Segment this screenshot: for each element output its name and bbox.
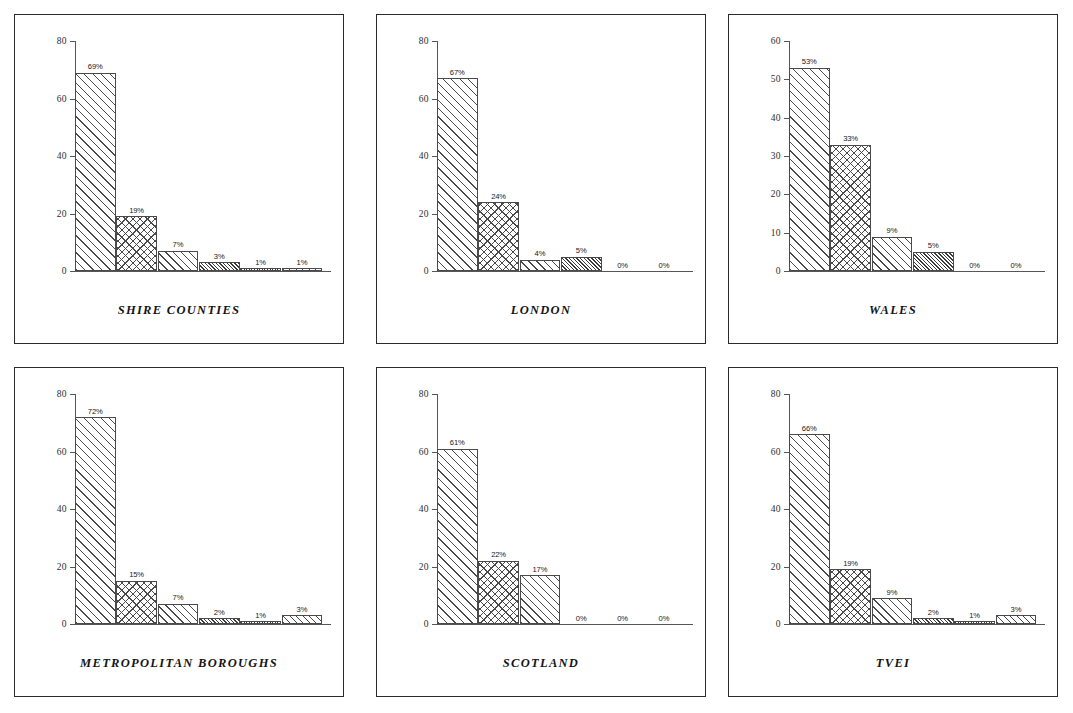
y-tick-label: 80 bbox=[35, 389, 67, 399]
chart-panel-1: 02040608069%19%7%3%1%1%SHIRE COUNTIES bbox=[14, 14, 344, 344]
bar bbox=[872, 598, 913, 624]
bar-value-label: 0% bbox=[659, 261, 670, 270]
bar-value-label: 0% bbox=[617, 261, 628, 270]
bar-value-label: 7% bbox=[173, 593, 184, 602]
bar bbox=[116, 581, 157, 624]
x-axis-line bbox=[75, 624, 331, 625]
bar-value-label: 0% bbox=[1011, 261, 1022, 270]
chart-panel-5: 02040608061%22%17%0%0%0%SCOTLAND bbox=[376, 367, 706, 697]
chart-panel-3: 010203040506053%33%9%5%0%0%WALES bbox=[728, 14, 1058, 344]
y-tick-label: 60 bbox=[397, 447, 429, 457]
y-tick-label: 60 bbox=[35, 447, 67, 457]
bar bbox=[75, 417, 116, 624]
bar-value-label: 19% bbox=[843, 559, 858, 568]
y-tick-label: 50 bbox=[749, 74, 781, 84]
y-tick bbox=[70, 271, 76, 272]
y-tick bbox=[70, 394, 76, 395]
bar bbox=[520, 575, 561, 624]
y-tick-label: 60 bbox=[397, 94, 429, 104]
bar-value-label: 0% bbox=[617, 614, 628, 623]
bar bbox=[437, 78, 478, 271]
y-tick-label: 0 bbox=[397, 619, 429, 629]
chart-caption: METROPOLITAN BOROUGHS bbox=[15, 656, 343, 671]
bar-value-label: 33% bbox=[843, 134, 858, 143]
bar-value-label: 1% bbox=[255, 258, 266, 267]
bar-value-label: 2% bbox=[214, 608, 225, 617]
y-tick-label: 80 bbox=[35, 36, 67, 46]
y-tick bbox=[432, 271, 438, 272]
bar-value-label: 19% bbox=[129, 206, 144, 215]
bar bbox=[996, 615, 1037, 624]
bar bbox=[116, 216, 157, 271]
y-tick-label: 60 bbox=[749, 447, 781, 457]
bar-value-label: 67% bbox=[450, 68, 465, 77]
bar bbox=[789, 434, 830, 624]
plot-area: 02040608072%15%7%2%1%3%METROPOLITAN BORO… bbox=[15, 368, 343, 696]
y-tick-label: 20 bbox=[397, 562, 429, 572]
bar-value-label: 1% bbox=[255, 611, 266, 620]
y-tick-label: 80 bbox=[397, 36, 429, 46]
y-tick bbox=[784, 41, 790, 42]
bar bbox=[830, 569, 871, 624]
chart-panel-4: 02040608072%15%7%2%1%3%METROPOLITAN BORO… bbox=[14, 367, 344, 697]
chart-caption: SHIRE COUNTIES bbox=[15, 303, 343, 318]
bar-value-label: 66% bbox=[802, 424, 817, 433]
y-tick bbox=[432, 624, 438, 625]
y-tick-label: 80 bbox=[749, 389, 781, 399]
bar-value-label: 61% bbox=[450, 438, 465, 447]
bar-value-label: 15% bbox=[129, 570, 144, 579]
plot-area: 02040608069%19%7%3%1%1%SHIRE COUNTIES bbox=[15, 15, 343, 343]
chart-caption: TVEI bbox=[729, 656, 1057, 671]
bar-value-label: 22% bbox=[491, 550, 506, 559]
y-tick bbox=[784, 394, 790, 395]
bar bbox=[158, 604, 199, 624]
bar-value-label: 1% bbox=[969, 611, 980, 620]
bar bbox=[282, 615, 323, 624]
bar-value-label: 3% bbox=[214, 252, 225, 261]
chart-panel-2: 02040608067%24%4%5%0%0%LONDON bbox=[376, 14, 706, 344]
bar-value-label: 1% bbox=[297, 258, 308, 267]
chart-caption: SCOTLAND bbox=[377, 656, 705, 671]
y-tick-label: 60 bbox=[749, 36, 781, 46]
bar-value-label: 4% bbox=[535, 249, 546, 258]
y-tick bbox=[784, 624, 790, 625]
chart-caption: LONDON bbox=[377, 303, 705, 318]
plot-area: 010203040506053%33%9%5%0%0%WALES bbox=[729, 15, 1057, 343]
bar bbox=[789, 68, 830, 271]
bar bbox=[282, 268, 323, 271]
bar-value-label: 72% bbox=[88, 407, 103, 416]
y-tick-label: 40 bbox=[397, 151, 429, 161]
y-tick-label: 0 bbox=[35, 266, 67, 276]
bar bbox=[240, 621, 281, 624]
x-axis-line bbox=[75, 271, 331, 272]
bar bbox=[913, 252, 954, 271]
bar bbox=[872, 237, 913, 272]
y-tick-label: 20 bbox=[749, 189, 781, 199]
plot-area: 02040608067%24%4%5%0%0%LONDON bbox=[377, 15, 705, 343]
y-tick-label: 10 bbox=[749, 228, 781, 238]
y-tick-label: 40 bbox=[749, 113, 781, 123]
bar bbox=[437, 449, 478, 624]
y-tick-label: 0 bbox=[749, 619, 781, 629]
y-tick-label: 0 bbox=[749, 266, 781, 276]
y-tick-label: 0 bbox=[35, 619, 67, 629]
bar bbox=[75, 73, 116, 271]
bar-value-label: 0% bbox=[659, 614, 670, 623]
chart-panel-6: 02040608066%19%9%2%1%3%TVEI bbox=[728, 367, 1058, 697]
bar-value-label: 3% bbox=[297, 605, 308, 614]
y-tick-label: 20 bbox=[35, 209, 67, 219]
x-axis-line bbox=[789, 271, 1045, 272]
bar-value-label: 3% bbox=[1011, 605, 1022, 614]
y-tick-label: 80 bbox=[397, 389, 429, 399]
bar-value-label: 5% bbox=[928, 241, 939, 250]
bar-value-label: 0% bbox=[969, 261, 980, 270]
y-tick-label: 40 bbox=[749, 504, 781, 514]
y-tick-label: 0 bbox=[397, 266, 429, 276]
bar bbox=[478, 561, 519, 624]
y-tick-label: 20 bbox=[35, 562, 67, 572]
bar bbox=[158, 251, 199, 271]
bar bbox=[913, 618, 954, 624]
y-tick-label: 40 bbox=[35, 504, 67, 514]
bar bbox=[954, 621, 995, 624]
bar bbox=[478, 202, 519, 271]
